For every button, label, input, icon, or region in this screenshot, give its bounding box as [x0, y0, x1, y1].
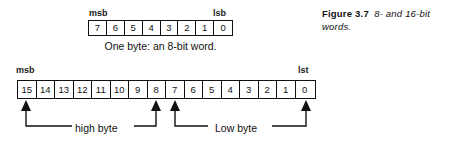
byte8-bit-cell: 1 — [196, 21, 214, 35]
figure-caption: Figure 3.7 8- and 16-bit words. — [322, 8, 447, 33]
low-byte-label: Low byte — [212, 122, 260, 134]
low-byte-bracket-right — [272, 107, 306, 126]
word16-lsb-label: lst — [298, 65, 309, 75]
byte8-lsb-label: lsb — [213, 8, 226, 18]
byte8-bit-cell: 4 — [143, 21, 161, 35]
high-byte-label: high byte — [72, 122, 121, 134]
word16-msb-label: msb — [16, 65, 35, 75]
word16-bit-cell: 2 — [259, 81, 278, 98]
arrow-up-icon — [170, 100, 180, 111]
byte8-bit-cell: 5 — [125, 21, 143, 35]
word16-bit-cell: 10 — [111, 81, 130, 98]
word16-bit-cell: 11 — [92, 81, 111, 98]
byte8-caption: One byte: an 8-bit word. — [88, 40, 233, 52]
word16-bit-cell: 0 — [296, 81, 315, 98]
byte8-bit-cell: 0 — [214, 21, 232, 35]
byte8-bit-cell: 6 — [107, 21, 125, 35]
figure-number: Figure 3.7 — [322, 8, 369, 19]
word16-bit-cell: 14 — [37, 81, 56, 98]
bracket-arrowheads — [21, 100, 311, 111]
word16-bit-cell: 6 — [185, 81, 204, 98]
byte-group-brackets-svg — [0, 99, 451, 141]
low-byte-bracket-left — [175, 107, 208, 126]
byte8-bit-cell: 2 — [178, 21, 196, 35]
byte-group-annotations — [0, 99, 451, 141]
word16-bit-cell: 4 — [222, 81, 241, 98]
word16-bit-cell: 12 — [74, 81, 93, 98]
word16-bit-cell: 7 — [166, 81, 185, 98]
word16-bit-cell: 15 — [18, 81, 37, 98]
arrow-up-icon — [21, 100, 31, 111]
figure-3-7: msb lsb 7 6 5 4 3 2 1 0 One byte: an 8-b… — [0, 0, 451, 152]
word16-bit-cell: 9 — [129, 81, 148, 98]
byte8-bit-row: 7 6 5 4 3 2 1 0 — [88, 20, 233, 36]
word16-bit-row: 15 14 13 12 11 10 9 8 7 6 5 4 3 2 1 0 — [17, 80, 316, 99]
word16-bit-cell: 8 — [148, 81, 167, 98]
word16-bit-cell: 13 — [55, 81, 74, 98]
arrow-up-icon — [301, 100, 311, 111]
word16-bit-cell: 3 — [240, 81, 259, 98]
byte8-bit-cell: 7 — [89, 21, 107, 35]
byte8-msb-label: msb — [89, 8, 108, 18]
word16-bit-cell: 5 — [203, 81, 222, 98]
arrow-up-icon — [151, 100, 161, 111]
word16-bit-cell: 1 — [277, 81, 296, 98]
byte8-bit-cell: 3 — [161, 21, 179, 35]
